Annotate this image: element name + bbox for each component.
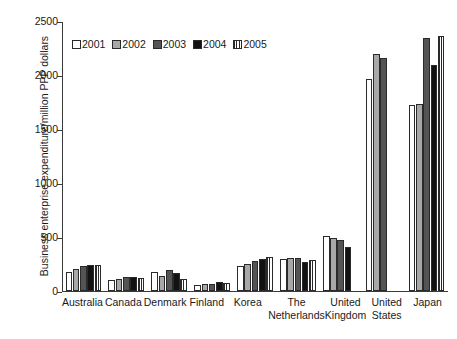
swatch-dark-gray-icon — [153, 40, 162, 49]
bar-canada-2004 — [130, 277, 137, 291]
bar-the-netherlands-2004 — [302, 262, 309, 291]
bar-australia-2003 — [80, 266, 87, 290]
bar-group-australia — [62, 22, 105, 291]
bar-group-denmark — [148, 22, 191, 291]
bar-korea-2003 — [252, 261, 259, 290]
bar-denmark-2005 — [180, 279, 187, 291]
x-tick-line: Australia — [62, 296, 103, 309]
y-tick-mark-2500 — [57, 22, 62, 23]
x-tick-line: Japan — [407, 296, 448, 309]
x-tick-united-states: UnitedStates — [366, 296, 407, 338]
bar-the-netherlands-2005 — [309, 260, 316, 290]
y-tick-2500: 2500 — [18, 15, 58, 27]
bar-the-netherlands-2003 — [295, 258, 302, 290]
x-tick-australia: Australia — [62, 296, 103, 338]
bar-united-kingdom-2001 — [323, 236, 330, 291]
y-tick-mark-1500 — [57, 130, 62, 131]
x-tick-line: States — [366, 309, 407, 322]
bar-japan-2004 — [431, 65, 438, 291]
legend-label: 2001 — [82, 38, 105, 50]
x-tick-line: The — [268, 296, 325, 309]
bar-canada-2001 — [108, 280, 115, 290]
bar-united-kingdom-2003 — [337, 240, 344, 290]
plot-area — [62, 22, 448, 292]
y-tick-mark-2000 — [57, 76, 62, 77]
bar-united-kingdom-2004 — [345, 247, 352, 291]
y-tick-mark-500 — [57, 238, 62, 239]
bar-korea-2001 — [237, 266, 244, 290]
x-tick-finland: Finland — [186, 296, 227, 338]
swatch-light-gray-icon — [112, 40, 121, 49]
bar-the-netherlands-2002 — [287, 258, 294, 291]
bar-canada-2005 — [138, 278, 145, 290]
bar-finland-2002 — [202, 284, 209, 290]
legend-item-2004: 2004 — [193, 38, 226, 50]
bar-japan-2005 — [438, 36, 445, 290]
legend-label: 2003 — [163, 38, 186, 50]
y-tick-2000: 2000 — [18, 69, 58, 81]
x-axis-tick-labels: AustraliaCanadaDenmarkFinlandKoreaTheNet… — [62, 296, 448, 338]
bar-denmark-2001 — [151, 272, 158, 291]
x-tick-canada: Canada — [103, 296, 144, 338]
legend-item-2003: 2003 — [153, 38, 186, 50]
bar-korea-2005 — [266, 257, 273, 290]
x-axis-line — [62, 291, 448, 292]
x-tick-line: Finland — [186, 296, 227, 309]
x-tick-line: Korea — [227, 296, 268, 309]
bar-denmark-2002 — [159, 276, 166, 291]
x-tick-denmark: Denmark — [144, 296, 187, 338]
bar-australia-2005 — [95, 265, 102, 290]
bar-finland-2003 — [209, 284, 216, 291]
y-tick-500: 500 — [18, 231, 58, 243]
bar-group-japan — [405, 22, 448, 291]
swatch-black-icon — [193, 40, 202, 49]
x-tick-korea: Korea — [227, 296, 268, 338]
legend-label: 2004 — [203, 38, 226, 50]
bar-japan-2002 — [416, 104, 423, 290]
bar-group-finland — [191, 22, 234, 291]
bar-denmark-2004 — [173, 273, 180, 290]
bar-canada-2002 — [116, 279, 123, 291]
x-tick-line: United — [366, 296, 407, 309]
bar-united-states-2002 — [373, 54, 380, 291]
y-tick-1500: 1500 — [18, 123, 58, 135]
bar-korea-2004 — [259, 259, 266, 290]
bar-group-korea — [234, 22, 277, 291]
bar-australia-2001 — [66, 272, 73, 290]
bar-united-kingdom-2002 — [330, 238, 337, 291]
y-axis-tick-labels: 05001000150020002500 — [18, 22, 58, 292]
bar-group-the-netherlands — [276, 22, 319, 291]
bar-chart: Business enterprise expenditure/million … — [0, 0, 457, 339]
bar-australia-2002 — [73, 269, 80, 291]
swatch-white-icon — [72, 40, 81, 49]
swatch-hatched-icon — [233, 40, 242, 49]
legend: 20012002200320042005 — [72, 38, 267, 50]
bar-canada-2003 — [123, 277, 130, 291]
bar-finland-2001 — [194, 285, 201, 291]
bar-group-united-kingdom — [319, 22, 362, 291]
bar-japan-2003 — [423, 38, 430, 291]
bar-japan-2001 — [409, 105, 416, 291]
bar-finland-2004 — [216, 282, 223, 291]
bar-united-states-2001 — [366, 79, 373, 291]
x-tick-the-netherlands: TheNetherlands — [268, 296, 325, 338]
x-tick-line: Denmark — [144, 296, 187, 309]
bar-groups — [62, 22, 448, 291]
x-tick-line: Canada — [103, 296, 144, 309]
x-tick-japan: Japan — [407, 296, 448, 338]
bar-denmark-2003 — [166, 270, 173, 291]
legend-item-2002: 2002 — [112, 38, 145, 50]
y-tick-mark-0 — [57, 292, 62, 293]
legend-label: 2005 — [243, 38, 266, 50]
legend-label: 2002 — [122, 38, 145, 50]
bar-group-canada — [105, 22, 148, 291]
y-tick-0: 0 — [18, 285, 58, 297]
y-tick-1000: 1000 — [18, 177, 58, 189]
bar-group-united-states — [362, 22, 405, 291]
legend-item-2001: 2001 — [72, 38, 105, 50]
bar-korea-2002 — [244, 264, 251, 290]
x-tick-united-kingdom: UnitedKingdom — [325, 296, 366, 338]
bar-finland-2005 — [223, 283, 230, 291]
legend-item-2005: 2005 — [233, 38, 266, 50]
bar-australia-2004 — [87, 265, 94, 291]
